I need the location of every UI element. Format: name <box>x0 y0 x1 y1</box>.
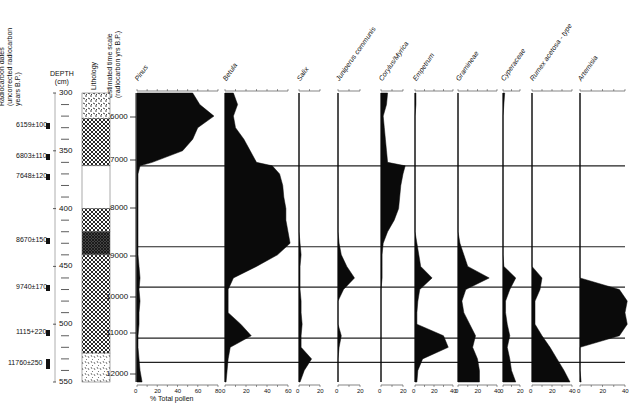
x-tick-label: 20 <box>517 388 524 394</box>
radiocarbon-date-label: 1115+220 <box>16 328 46 335</box>
x-tick-label: 20 <box>549 388 556 394</box>
x-tick-label: 20 <box>154 388 161 394</box>
x-tick-label: 20 <box>400 388 407 394</box>
date-marker <box>46 123 50 129</box>
date-marker <box>46 174 50 180</box>
depth-tick-label: 350 <box>59 146 72 155</box>
x-tick-label: 20 <box>243 388 250 394</box>
x-tick-label: 40 <box>264 388 271 394</box>
date-marker <box>46 154 50 160</box>
date-marker <box>46 238 50 244</box>
depth-tick-label: 500 <box>59 319 72 328</box>
time-tick-label: 9000 <box>110 251 128 260</box>
x-tick-label: 60 <box>195 388 202 394</box>
date-marker <box>46 330 50 336</box>
time-tick-label: 6000 <box>110 112 128 121</box>
depth-tick-label: 300 <box>59 88 72 97</box>
x-tick-label: 20 <box>431 388 438 394</box>
depth-tick-label: 550 <box>59 377 72 386</box>
x-tick-label: 0 <box>455 388 458 394</box>
x-tick-label: 0 <box>134 388 137 394</box>
radiocarbon-date-label: 8670±150 <box>16 236 47 243</box>
time-tick-label: 10000 <box>106 292 128 301</box>
radiocarbon-date-label: 6803±110 <box>16 152 47 159</box>
date-marker <box>46 359 50 369</box>
date-marker <box>46 285 50 291</box>
x-tick-label: 0 <box>335 388 338 394</box>
depth-tick-label: 400 <box>59 204 72 213</box>
x-tick-label: 20 <box>357 388 364 394</box>
time-tick-label: 7000 <box>110 155 128 164</box>
x-tick-label: 0 <box>222 388 225 394</box>
x-tick-label: 0 <box>412 388 415 394</box>
x-tick-label: 20 <box>600 388 607 394</box>
time-tick-label: 12000 <box>106 369 128 378</box>
time-tick-label: 11000 <box>106 328 128 337</box>
x-tick-label: 20 <box>475 388 482 394</box>
x-tick-label: 60 <box>285 388 292 394</box>
x-tick-label: 0 <box>296 388 299 394</box>
x-tick-label: 0 <box>500 388 503 394</box>
x-tick-label: 80 <box>215 388 222 394</box>
x-tick-label: 0 <box>577 388 580 394</box>
radiocarbon-date-label: 7648±120 <box>16 172 47 179</box>
x-tick-label: 0 <box>378 388 381 394</box>
radiocarbon-date-label: 6159±100 <box>16 121 47 128</box>
x-tick-label: 40 <box>175 388 182 394</box>
x-axis-title: % Total pollen <box>150 395 193 402</box>
x-tick-label: 0 <box>529 388 532 394</box>
depth-tick-label: 450 <box>59 261 72 270</box>
x-tick-label: 40 <box>569 388 576 394</box>
radiocarbon-date-label: 9740±170 <box>16 283 47 290</box>
radiocarbon-date-label: 11760±250 <box>8 359 42 366</box>
time-tick-label: 8000 <box>110 203 128 212</box>
x-tick-label: 20 <box>317 388 324 394</box>
x-tick-label: 40 <box>622 388 629 394</box>
